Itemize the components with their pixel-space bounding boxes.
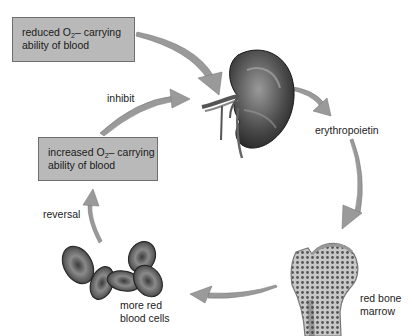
reversal-label: reversal (43, 208, 80, 221)
reduced-line1: reduced O (22, 26, 71, 38)
inhibit-label: inhibit (107, 92, 134, 105)
reduced-line1-end: – carrying (75, 26, 121, 38)
increased-line2: ability of blood (48, 159, 115, 171)
red-blood-cells-illustration (56, 237, 169, 303)
increased-line1-end: – carrying (109, 146, 155, 158)
red-bone-marrow-label: red bone marrow (360, 292, 401, 318)
marrow-text: marrow (360, 305, 395, 317)
reduced-o2-box: reduced O2– carrying ability of blood (12, 17, 135, 62)
more-rbc-label: more red blood cells (120, 299, 170, 325)
arrow-reduced-to-kidney (136, 32, 222, 95)
bone-illustration (291, 243, 358, 336)
red-bone-text: red bone (360, 292, 401, 304)
erythropoietin-label: erythropoietin (315, 124, 379, 137)
arrow-rbc-to-increased (83, 189, 102, 243)
increased-o2-box: increased O2– carrying ability of blood (38, 137, 158, 181)
blood-cells-text: blood cells (120, 312, 170, 324)
more-red-text: more red (120, 299, 162, 311)
reduced-line2: ability of blood (22, 39, 89, 51)
kidney-illustration (202, 50, 294, 158)
increased-line1: increased O (48, 146, 105, 158)
arrow-bone-to-rbc (190, 285, 277, 303)
arrow-epo-to-bone (342, 139, 362, 229)
